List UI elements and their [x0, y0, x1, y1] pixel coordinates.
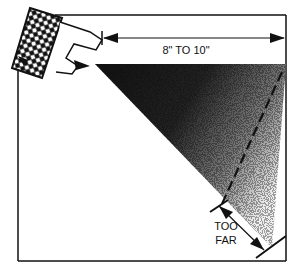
spray-cone	[95, 64, 286, 248]
too-far-label-line1: TOO	[214, 220, 238, 232]
too-far-label-line2: FAR	[215, 234, 236, 246]
nozzle-tip-icon	[74, 60, 90, 70]
arrowhead-left-icon	[103, 33, 118, 43]
distance-label: 8" TO 10"	[162, 44, 209, 56]
spray-nozzle	[12, 8, 102, 78]
arrowhead-right-icon	[270, 33, 285, 43]
distance-dimension-arrow	[102, 31, 285, 45]
diagram-canvas: 8" TO 10" TOO FAR	[0, 0, 298, 274]
